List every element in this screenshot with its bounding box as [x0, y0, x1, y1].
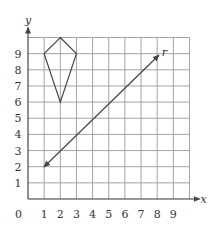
- x-tick-label: 8: [154, 208, 161, 221]
- x-axis-label: x: [201, 193, 208, 206]
- y-tick-label: 2: [15, 161, 22, 174]
- y-axis-label: y: [24, 14, 32, 27]
- x-tick-label: 6: [121, 208, 128, 221]
- x-tick-label: 3: [73, 208, 80, 221]
- y-tick-labels: 123456789: [15, 48, 22, 190]
- coordinate-plane-figure: x y 0 123456789 123456789 r: [0, 0, 215, 228]
- line-r-label: r: [162, 46, 168, 59]
- y-tick-label: 1: [15, 177, 22, 190]
- origin-label: 0: [15, 208, 22, 221]
- x-tick-label: 7: [138, 208, 145, 221]
- line-r: [44, 55, 159, 166]
- coordinate-plane: x y 0 123456789 123456789 r: [0, 0, 215, 228]
- x-tick-label: 4: [89, 208, 96, 221]
- y-tick-label: 3: [15, 145, 22, 158]
- x-tick-label: 9: [170, 208, 177, 221]
- y-tick-label: 7: [15, 80, 22, 93]
- y-tick-label: 5: [15, 112, 22, 125]
- y-tick-label: 4: [15, 128, 22, 141]
- x-tick-label: 2: [57, 208, 64, 221]
- y-tick-label: 6: [15, 96, 22, 109]
- y-tick-label: 8: [15, 64, 22, 77]
- y-tick-label: 9: [15, 48, 22, 61]
- x-tick-labels: 123456789: [41, 208, 177, 221]
- grid-lines: [28, 38, 190, 200]
- x-tick-label: 5: [105, 208, 112, 221]
- x-tick-label: 1: [41, 208, 48, 221]
